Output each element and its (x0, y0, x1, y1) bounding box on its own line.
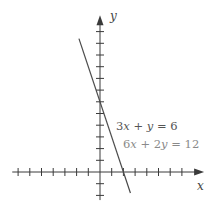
x-axis-label: x (197, 180, 204, 192)
equation-label-1: 3x + y = 6 (116, 121, 178, 133)
y-axis-label: y (110, 10, 117, 22)
x-axis-arrow-icon (194, 169, 204, 176)
coordinate-plane (0, 0, 219, 216)
line-3x-plus-y-equals-6 (79, 39, 130, 193)
x-axis (12, 168, 204, 176)
equation-line (79, 39, 130, 193)
y-axis-arrow-icon (97, 15, 104, 25)
equation-label-2: 6x + 2y = 12 (123, 139, 199, 151)
